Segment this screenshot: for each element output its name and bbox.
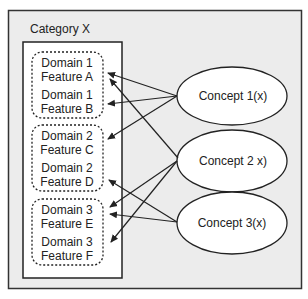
feature-e-line1: Domain 3: [41, 203, 93, 217]
feature-a-line2: Feature A: [41, 70, 93, 84]
feature-f-line2: Feature F: [41, 249, 93, 263]
concept-1-label: Concept 1(x): [199, 89, 268, 103]
feature-c-line1: Domain 2: [41, 129, 93, 143]
feature-d-line1: Domain 2: [41, 161, 93, 175]
feature-b-line1: Domain 1: [41, 88, 93, 102]
feature-e-line2: Feature E: [41, 217, 94, 231]
feature-b-line2: Feature B: [41, 102, 94, 116]
concept-2-label: Concept 2 x): [199, 154, 267, 168]
feature-a-line1: Domain 1: [41, 56, 93, 70]
feature-d-line2: Feature D: [40, 175, 94, 189]
diagram-canvas: Category X Domain 1 Feature A Domain 1 F…: [0, 0, 308, 299]
feature-f-line1: Domain 3: [41, 235, 93, 249]
concept-3-label: Concept 3(x): [198, 216, 267, 230]
feature-c-line2: Feature C: [40, 143, 94, 157]
category-title: Category X: [30, 22, 90, 36]
